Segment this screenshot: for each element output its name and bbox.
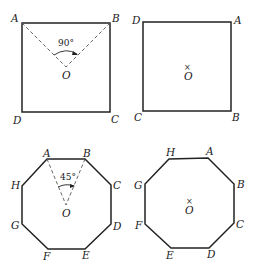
octagon-figure-1: 45° A B C D E F G H O xyxy=(10,147,122,262)
vertex-label-B: B xyxy=(82,147,91,159)
vertex-label-C: C xyxy=(236,218,244,230)
center-label-O: O xyxy=(184,70,193,82)
vertex-label-A: A xyxy=(233,14,242,26)
square-figure-2: D A B C × O xyxy=(131,14,242,123)
angle-label: 45° xyxy=(60,172,76,182)
vertex-label-D: D xyxy=(112,220,122,232)
vertex-label-A: A xyxy=(42,147,51,159)
vertex-label-A: A xyxy=(10,12,19,24)
vertex-label-D: D xyxy=(131,14,141,26)
vertex-label-C: C xyxy=(113,179,121,191)
vertex-label-C: C xyxy=(111,113,119,125)
center-label-O: O xyxy=(185,204,194,216)
rotation-symmetry-diagram: 90° A B C D O D A B C × O 45° A B C D E … xyxy=(0,0,257,271)
arrowhead-icon xyxy=(72,51,78,55)
vertex-label-F: F xyxy=(42,250,51,262)
vertex-label-G: G xyxy=(11,219,19,231)
vertex-label-B: B xyxy=(231,111,240,123)
vertex-label-B: B xyxy=(236,178,245,190)
octagon-figure-2: H A B C D E F G × O xyxy=(134,145,245,261)
center-label-O: O xyxy=(62,207,71,219)
radius-OA xyxy=(47,159,66,205)
vertex-label-B: B xyxy=(111,12,120,24)
arrowhead-icon xyxy=(70,184,75,188)
vertex-label-H: H xyxy=(10,179,21,191)
vertex-label-D: D xyxy=(206,248,216,260)
vertex-label-D: D xyxy=(12,114,22,126)
radius-OB xyxy=(66,159,85,205)
vertex-label-E: E xyxy=(165,249,174,261)
vertex-label-H: H xyxy=(165,146,176,158)
vertex-label-A: A xyxy=(205,145,214,157)
vertex-label-F: F xyxy=(134,219,143,231)
angle-label: 90° xyxy=(58,38,74,48)
vertex-label-C: C xyxy=(134,111,142,123)
square-figure-1: 90° A B C D O xyxy=(10,12,120,126)
vertex-label-G: G xyxy=(134,179,142,191)
vertex-label-E: E xyxy=(81,249,90,261)
center-label-O: O xyxy=(62,69,71,81)
